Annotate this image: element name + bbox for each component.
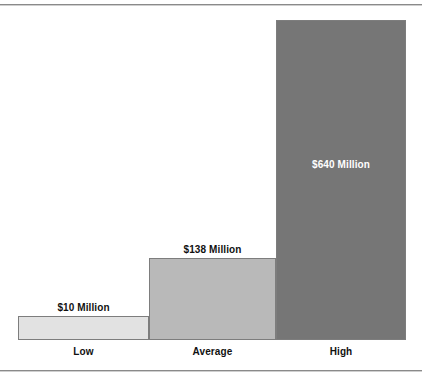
bar-chart: $10 Million $138 Million $640 Million Lo… [0,0,422,377]
category-label-low: Low [18,346,149,357]
bar-high[interactable] [276,20,406,340]
bar-value-label-low: $10 Million [18,302,149,313]
chart-plot-area: $10 Million $138 Million $640 Million [18,12,406,340]
bottom-divider-rule-shadow [0,371,422,372]
bar-value-label-average: $138 Million [149,244,276,255]
category-label-high: High [276,346,406,357]
bar-average[interactable] [149,258,276,340]
category-axis: Low Average High [18,346,406,362]
category-label-average: Average [149,346,276,357]
bar-low[interactable] [18,316,149,340]
bar-value-label-high: $640 Million [276,159,406,170]
